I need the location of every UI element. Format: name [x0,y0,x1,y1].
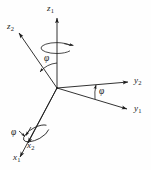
axis-line-x1 [20,88,57,157]
angle-label-phi-z: φ [44,54,49,64]
axis-label-x1: x1 [13,153,20,162]
axis-label-z2: z2 [7,22,14,31]
axis-label-z1: z1 [47,4,54,13]
angle-label-phi-x: φ [11,128,16,138]
rotation-arrow-x2 [26,127,31,136]
axis-line-z2 [19,33,57,88]
figure-canvas [0,0,151,170]
angle-arc-phi-x [19,131,25,137]
angle-arc-phi-y [95,85,96,99]
origin-point [56,87,58,89]
coordinate-rotation-figure: z1 z2 y2 y1 x2 x1 φ φ φ [0,0,151,170]
axis-line-y1 [57,88,127,109]
axis-line-y2 [57,82,128,88]
axis-label-y2: y2 [134,76,141,85]
angle-label-phi-y: φ [99,87,104,97]
rotation-ellipse-x2 [21,122,50,145]
axis-label-x2: x2 [27,141,34,150]
axis-label-y1: y1 [134,104,141,113]
